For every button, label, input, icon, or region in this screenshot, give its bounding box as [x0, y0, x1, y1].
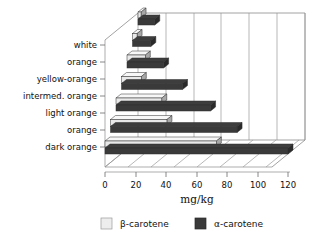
- y-axis-ticks: [100, 45, 105, 147]
- category-label-orange-bottom: orange: [67, 125, 97, 135]
- bar-white-alpha: [138, 15, 160, 25]
- bar-dark-orange-alpha: [105, 144, 293, 154]
- legend: β-carotene α-carotene: [101, 218, 263, 229]
- x-tick-label-60: 60: [192, 180, 203, 190]
- category-label-yellow-orange: yellow-orange: [37, 74, 97, 84]
- x-tick-label-100: 100: [250, 180, 266, 190]
- x-axis-title: mg/kg: [180, 193, 214, 205]
- category-label-white: white: [74, 40, 97, 50]
- x-tick-label-20: 20: [131, 180, 142, 190]
- legend-swatch-beta-carotene: [101, 218, 112, 229]
- x-tick-label-120: 120: [280, 180, 296, 190]
- x-tick-label-40: 40: [161, 180, 172, 190]
- bar-orange-alpha: [111, 123, 243, 133]
- legend-label-beta-carotene: β-carotene: [120, 219, 169, 229]
- bar-orange-alpha: [133, 37, 156, 47]
- category-label-light-orange: light orange: [46, 108, 97, 118]
- x-tick-label-80: 80: [222, 180, 233, 190]
- bar-yellow-orange-alpha: [127, 58, 169, 68]
- x-axis: 0 20 40 60 80 100 120 mg/kg: [102, 172, 296, 205]
- bar-intermed-orange-alpha: [122, 80, 188, 90]
- x-tick-label-0: 0: [102, 180, 107, 190]
- category-label-dark-orange: dark orange: [45, 142, 97, 152]
- legend-swatch-alpha-carotene: [195, 218, 206, 229]
- category-label-intermed-orange: intermed. orange: [23, 91, 97, 101]
- y-axis-category-labels: white orange yellow-orange intermed. ora…: [23, 40, 97, 152]
- legend-label-alpha-carotene: α-carotene: [214, 219, 263, 229]
- carotene-bar-chart: white orange yellow-orange intermed. ora…: [0, 0, 328, 240]
- category-label-orange-top: orange: [67, 57, 97, 67]
- bars-layer: [105, 8, 293, 154]
- bar-light-orange-alpha: [116, 101, 216, 111]
